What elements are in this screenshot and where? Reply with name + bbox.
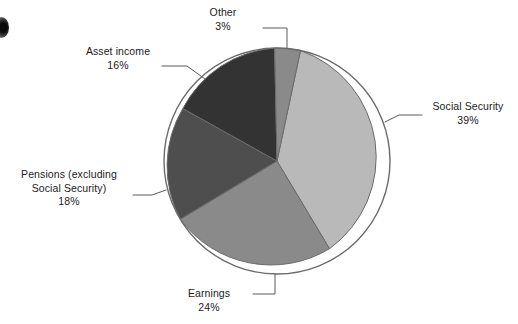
pie-label-asset-income: Asset income 16% — [74, 45, 162, 72]
leader-line-other — [263, 28, 287, 48]
pie-label-social-security: Social Security 39% — [424, 100, 512, 127]
pie-label-other: Other 3% — [180, 6, 266, 33]
pie-chart-figure: Other 3% Asset income 16% Pensions (excl… — [0, 0, 518, 324]
leader-line-earnings — [253, 274, 275, 294]
pie-label-pensions: Pensions (excluding Social Security) 18% — [6, 168, 132, 209]
pie-label-earnings: Earnings 24% — [166, 287, 252, 314]
leader-line-asset-income — [162, 66, 205, 79]
leader-line-pensions — [133, 190, 166, 195]
leader-line-social-security — [385, 115, 422, 122]
